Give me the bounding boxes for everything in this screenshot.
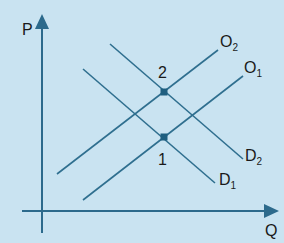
equilibrium-point-2 bbox=[161, 89, 168, 96]
point-label-2: 2 bbox=[158, 65, 167, 81]
label-o1: O1 bbox=[244, 60, 262, 79]
point-label-1: 1 bbox=[158, 152, 167, 168]
label-d2-name: D bbox=[245, 147, 257, 164]
label-d1-subscript: 1 bbox=[231, 180, 237, 191]
label-d1-name: D bbox=[219, 171, 231, 188]
demand-curve-d2 bbox=[110, 44, 243, 159]
label-d2: D2 bbox=[245, 148, 262, 167]
label-o1-name: O bbox=[244, 59, 256, 76]
supply-demand-diagram: P Q O2 O1 D2 D1 2 1 bbox=[0, 0, 284, 243]
label-o2-subscript: 2 bbox=[232, 42, 238, 53]
label-d1: D1 bbox=[219, 172, 236, 191]
label-o2: O2 bbox=[220, 34, 238, 53]
y-axis-label: P bbox=[22, 22, 33, 38]
x-axis-arrow-icon bbox=[264, 204, 279, 218]
y-axis-arrow-icon bbox=[35, 14, 49, 29]
diagram-graphics bbox=[0, 0, 284, 243]
demand-curve-d1 bbox=[83, 69, 215, 183]
x-axis-label: Q bbox=[265, 223, 277, 239]
label-o1-subscript: 1 bbox=[256, 68, 262, 79]
label-d2-subscript: 2 bbox=[257, 156, 263, 167]
equilibrium-point-1 bbox=[161, 134, 168, 141]
label-o2-name: O bbox=[220, 33, 232, 50]
